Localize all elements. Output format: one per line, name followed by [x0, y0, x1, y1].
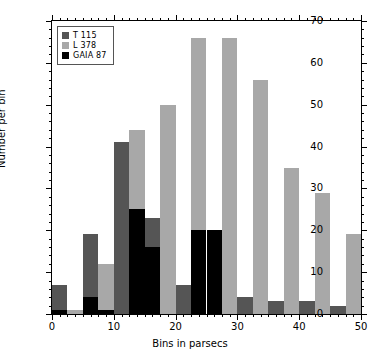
x-tick-label: 40 — [293, 322, 306, 332]
axis-tick — [46, 63, 52, 64]
axis-tick — [361, 205, 364, 206]
axis-tick — [284, 314, 285, 317]
axis-tick — [168, 314, 169, 317]
axis-tick — [114, 314, 115, 320]
axis-tick — [106, 314, 107, 317]
axis-tick — [330, 18, 331, 21]
bar — [145, 247, 160, 314]
x-axis-title: Bins in parsecs — [0, 338, 380, 349]
axis-tick — [199, 18, 200, 21]
axis-tick — [122, 314, 123, 317]
axis-tick — [49, 71, 52, 72]
legend-swatch-l — [62, 42, 69, 49]
axis-tick — [49, 247, 52, 248]
axis-tick — [268, 314, 269, 317]
axis-tick — [49, 180, 52, 181]
axis-tick — [207, 314, 208, 317]
axis-tick — [46, 105, 52, 106]
axis-tick — [52, 314, 53, 320]
axis-tick — [307, 314, 308, 317]
legend-item-l: L 378 — [62, 41, 107, 50]
bar — [207, 230, 222, 314]
axis-tick — [291, 314, 292, 317]
axis-tick — [83, 18, 84, 21]
axis-tick — [245, 18, 246, 21]
axis-tick — [361, 21, 367, 22]
bar — [253, 80, 268, 314]
axis-tick — [49, 306, 52, 307]
axis-tick — [230, 314, 231, 317]
axis-tick — [361, 71, 364, 72]
axis-tick — [168, 18, 169, 21]
x-tick-label: 10 — [107, 322, 120, 332]
bar — [299, 301, 314, 314]
axis-tick — [91, 314, 92, 317]
axis-tick — [361, 188, 367, 189]
axis-tick — [106, 18, 107, 21]
bar — [330, 306, 345, 314]
axis-tick — [361, 113, 364, 114]
axis-tick — [49, 297, 52, 298]
axis-tick — [361, 197, 364, 198]
bar — [160, 105, 175, 314]
axis-tick — [49, 138, 52, 139]
chart-legend: T 115 L 378 GAIA 87 — [57, 26, 114, 65]
axis-tick — [214, 314, 215, 317]
axis-tick — [214, 18, 215, 21]
axis-tick — [160, 314, 161, 317]
axis-tick — [299, 15, 300, 21]
axis-tick — [361, 264, 364, 265]
bar — [114, 142, 129, 314]
axis-tick — [49, 155, 52, 156]
bar — [191, 230, 206, 314]
axis-tick — [361, 46, 364, 47]
y-tick-label: 50 — [310, 100, 323, 110]
axis-tick — [183, 314, 184, 317]
axis-tick — [237, 15, 238, 21]
axis-tick — [276, 314, 277, 317]
axis-tick — [361, 121, 364, 122]
axis-tick — [49, 281, 52, 282]
axis-tick — [137, 18, 138, 21]
axis-tick — [49, 88, 52, 89]
axis-tick — [199, 314, 200, 317]
axis-tick — [152, 314, 153, 317]
axis-tick — [137, 314, 138, 317]
axis-tick — [49, 239, 52, 240]
axis-tick — [91, 18, 92, 21]
axis-tick — [152, 18, 153, 21]
axis-tick — [67, 314, 68, 317]
axis-tick — [338, 18, 339, 21]
axis-tick — [361, 281, 364, 282]
y-tick-label: 30 — [310, 183, 323, 193]
axis-tick — [49, 255, 52, 256]
x-tick-label: 30 — [231, 322, 244, 332]
axis-tick — [46, 147, 52, 148]
axis-tick — [75, 18, 76, 21]
axis-tick — [49, 222, 52, 223]
axis-tick — [122, 18, 123, 21]
axis-tick — [361, 306, 364, 307]
axis-tick — [145, 18, 146, 21]
axis-tick — [361, 314, 362, 320]
legend-item-t: T 115 — [62, 31, 107, 40]
y-tick-label: 20 — [310, 225, 323, 235]
axis-tick — [361, 155, 364, 156]
axis-tick — [338, 314, 339, 317]
axis-tick — [361, 172, 364, 173]
axis-tick — [46, 21, 52, 22]
axis-tick — [253, 18, 254, 21]
axis-tick — [237, 314, 238, 320]
axis-tick — [49, 214, 52, 215]
legend-label-gaia: GAIA 87 — [73, 51, 107, 60]
bar — [268, 301, 283, 314]
axis-tick — [49, 96, 52, 97]
x-tick-label: 0 — [49, 322, 55, 332]
y-axis-title: Number per bin — [0, 89, 7, 168]
axis-tick — [346, 18, 347, 21]
axis-tick — [49, 264, 52, 265]
axis-tick — [361, 80, 364, 81]
legend-swatch-t — [62, 32, 69, 39]
axis-tick — [361, 138, 364, 139]
axis-tick — [49, 54, 52, 55]
